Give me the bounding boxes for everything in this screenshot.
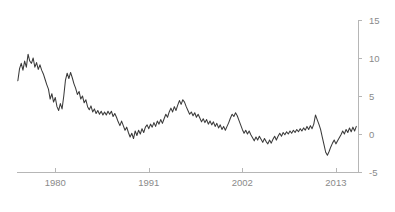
y-tick-label: 5 xyxy=(369,91,374,102)
line-chart: -5051015 1980199120022013 xyxy=(0,0,395,212)
x-tick-label: 1991 xyxy=(138,177,159,188)
x-tick-label: 2013 xyxy=(325,177,346,188)
y-tick-label: 10 xyxy=(369,53,380,64)
chart-container: -5051015 1980199120022013 xyxy=(0,0,395,212)
y-tick-label: 15 xyxy=(369,15,380,26)
x-tick-label: 1980 xyxy=(45,177,66,188)
x-tick-label: 2002 xyxy=(232,177,253,188)
y-tick-label: 0 xyxy=(369,129,374,140)
y-tick-label: -5 xyxy=(369,167,377,178)
